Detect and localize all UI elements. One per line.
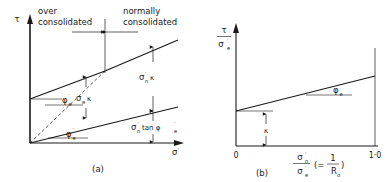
svg-text:consolidated: consolidated bbox=[123, 17, 177, 27]
panel-b-caption: (b) bbox=[256, 168, 268, 178]
diagram-svg: τ σ′ over consolidated normally consolid… bbox=[0, 0, 390, 182]
svg-text:φ: φ bbox=[333, 85, 339, 95]
svg-text:e: e bbox=[174, 128, 177, 134]
svg-text:normally: normally bbox=[123, 6, 160, 16]
svg-text:σ: σ bbox=[218, 39, 224, 49]
panel-a-label-sigma-n-kappa: σ ′ n κ bbox=[139, 71, 154, 84]
figure-canvas: τ σ′ over consolidated normally consolid… bbox=[0, 0, 390, 182]
svg-text:φ: φ bbox=[66, 129, 72, 139]
svg-text:n: n bbox=[137, 128, 140, 134]
svg-text:n: n bbox=[305, 158, 308, 164]
panel-a-label-over-consolidated: over consolidated bbox=[38, 6, 92, 27]
panel-a-label-sigma-e-kappa: σ ′ e κ bbox=[76, 92, 91, 105]
panel-a-y-axis-label: τ bbox=[14, 14, 19, 24]
svg-text:e: e bbox=[82, 99, 85, 105]
svg-text:consolidated: consolidated bbox=[38, 17, 92, 27]
svg-text:e: e bbox=[305, 172, 308, 178]
panel-a-x-axis bbox=[30, 140, 184, 146]
panel-a: τ σ′ over consolidated normally consolid… bbox=[14, 6, 184, 174]
svg-text:e: e bbox=[227, 45, 230, 51]
svg-text:′: ′ bbox=[137, 121, 139, 127]
panel-a-label-normally-consolidated: normally consolidated bbox=[123, 6, 177, 27]
svg-text:σ: σ bbox=[297, 152, 303, 162]
panel-b-x-axis-label: σ ′ n σ ′ e (= 1 R σ ) bbox=[293, 151, 344, 178]
panel-a-x-axis-label: σ′ bbox=[172, 147, 179, 158]
svg-text:n: n bbox=[145, 78, 148, 84]
svg-text:′: ′ bbox=[227, 38, 229, 44]
svg-text:): ) bbox=[341, 160, 344, 170]
svg-text:′: ′ bbox=[174, 121, 176, 127]
svg-text:κ: κ bbox=[150, 74, 154, 82]
panel-a-caption: (a) bbox=[92, 164, 104, 174]
svg-text:σ: σ bbox=[297, 166, 303, 176]
svg-text:σ: σ bbox=[337, 172, 341, 178]
svg-text:(=: (= bbox=[314, 160, 324, 170]
svg-text:′: ′ bbox=[82, 92, 84, 98]
panel-b-xtick-1: 1·0 bbox=[369, 151, 382, 160]
panel-b-label-kappa: κ bbox=[264, 127, 268, 135]
panel-a-y-axis bbox=[27, 14, 33, 143]
svg-text:over: over bbox=[38, 6, 57, 16]
panel-b-envelope-line bbox=[236, 76, 375, 111]
panel-a-label-phi-upper: φ ′ e bbox=[62, 93, 72, 107]
svg-text:1: 1 bbox=[330, 153, 335, 163]
svg-text:′: ′ bbox=[145, 71, 147, 77]
panel-b-y-axis bbox=[233, 23, 239, 146]
svg-text:′: ′ bbox=[69, 93, 71, 99]
svg-text:′: ′ bbox=[305, 151, 307, 157]
svg-text:′: ′ bbox=[305, 165, 307, 171]
panel-a-label-sigma-n-tan-phi: σ ′ n tan φ ′ e bbox=[131, 121, 177, 134]
panel-b: τ σ ′ e 0 1·0 κ φ ′ e σ ′ n bbox=[217, 23, 381, 178]
svg-text:τ: τ bbox=[221, 25, 226, 35]
panel-b-y-axis-label: τ σ ′ e bbox=[217, 25, 231, 51]
svg-text:e: e bbox=[69, 101, 72, 107]
svg-text:e: e bbox=[340, 91, 343, 97]
svg-text:tan φ: tan φ bbox=[142, 124, 161, 132]
svg-text:φ: φ bbox=[62, 95, 68, 105]
svg-text:e: e bbox=[73, 135, 76, 141]
svg-text:κ: κ bbox=[87, 95, 91, 103]
panel-a-label-phi-lower: φ ′ e bbox=[66, 127, 76, 141]
panel-a-peak-envelope bbox=[30, 40, 178, 99]
panel-b-xtick-0: 0 bbox=[233, 151, 238, 160]
